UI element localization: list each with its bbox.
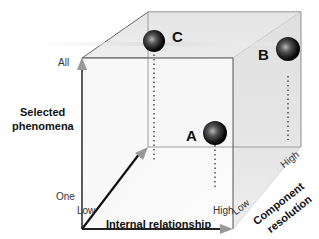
point-c-label: C [172, 29, 183, 44]
y-axis-title-line2: phenomena [12, 121, 74, 132]
x-axis-title: Internal relationship [106, 219, 211, 230]
y-axis-low-tick: One [56, 192, 75, 202]
y-axis-high-tick: All [58, 58, 69, 68]
point-b-sphere [276, 37, 300, 61]
x-axis-low-tick: Low [77, 206, 95, 216]
y-axis-title-line1: Selected [20, 107, 65, 118]
point-c-sphere [143, 30, 165, 52]
point-b-label: B [258, 47, 269, 62]
point-a-sphere [203, 121, 227, 145]
point-a-label: A [186, 128, 197, 143]
